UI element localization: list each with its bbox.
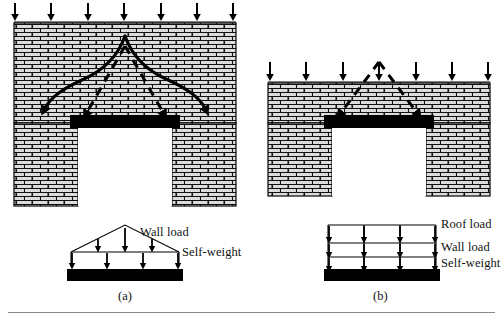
panel-b-self-weight-label: Self-weight xyxy=(441,256,500,271)
panel-a-lintel-beam xyxy=(70,115,180,128)
panel-a-caption: (a) xyxy=(118,289,132,304)
panel-b-end-verticals xyxy=(328,225,436,269)
panel-a-footing xyxy=(67,269,183,281)
panel-a xyxy=(14,3,236,281)
panel-b-load-diagram xyxy=(324,225,440,281)
panel-b-roof-load-arrows xyxy=(329,226,435,240)
panel-b-self-weight-arrows xyxy=(329,258,435,269)
panel-a-wall-load-label: Wall load xyxy=(140,225,189,240)
panel-b-interior-verticals xyxy=(364,225,400,269)
panel-b-wall-load-arrows xyxy=(329,244,435,255)
panel-b-caption: (b) xyxy=(373,289,388,304)
panel-b-roof-load-label: Roof load xyxy=(441,217,492,232)
panel-b-wall-load-label: Wall load xyxy=(441,240,490,255)
bottom-rule xyxy=(8,312,495,313)
panel-b-wall-masonry xyxy=(268,83,490,196)
panel-a-self-weight-label: Self-weight xyxy=(182,245,241,260)
panel-b-footing xyxy=(324,269,440,281)
panel-a-top-load-arrows xyxy=(14,3,236,22)
panel-b-band-lines xyxy=(328,225,436,257)
figure-container: Wall load Self-weight Roof load Wall loa… xyxy=(0,0,503,323)
panel-a-wall-masonry xyxy=(14,23,236,206)
panel-b-top-load-arrows xyxy=(268,62,490,82)
masonry-wall-load-figure xyxy=(0,0,503,323)
panel-a-end-verticals xyxy=(71,252,179,266)
panel-b-lintel-beam xyxy=(324,115,434,128)
panel-a-self-weight-arrows xyxy=(72,253,178,266)
